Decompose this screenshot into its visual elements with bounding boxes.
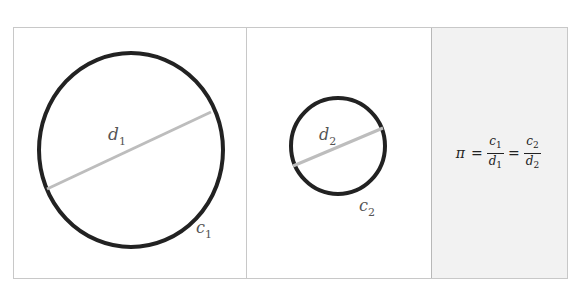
panel-small-circle: d2 c2 [247, 28, 432, 278]
label-d2: d2 [319, 125, 336, 148]
panel-formula: π = c1 d1 = c2 d2 [432, 28, 567, 278]
small-circle-figure: d2 c2 [247, 28, 432, 280]
pi-symbol: π [456, 145, 465, 161]
diagram-frame: d1 c1 d2 c2 π = c1 d1 = c2 d2 [13, 27, 568, 279]
equals-sign-2: = [508, 145, 520, 161]
equals-sign-1: = [471, 145, 483, 161]
panel-large-circle: d1 c1 [14, 28, 247, 278]
label-c1: c1 [196, 218, 212, 241]
label-c2: c2 [359, 196, 375, 219]
fraction-c2-d2: c2 d2 [524, 134, 541, 172]
fraction-c1-d1: c1 d1 [487, 134, 504, 172]
pi-formula: π = c1 d1 = c2 d2 [432, 28, 567, 278]
label-d1: d1 [108, 124, 126, 148]
diameter-d1 [47, 112, 211, 189]
diameter-d2 [293, 128, 383, 166]
large-circle-figure: d1 c1 [14, 28, 247, 280]
